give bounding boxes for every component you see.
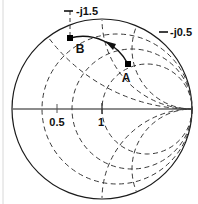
label-point-a: A <box>122 71 131 85</box>
label-axis-tick-0-5: 0.5 <box>49 116 64 128</box>
marker-point-a[interactable] <box>125 61 131 67</box>
label-point-b: B <box>76 42 85 56</box>
label-reactance-neg-j0-5: -j0.5 <box>170 26 192 38</box>
smith-chart-figure: -j1.5 -j0.5 0.5 1 A B <box>0 0 198 204</box>
label-axis-tick-1: 1 <box>98 116 104 128</box>
chart-background <box>0 0 198 204</box>
smith-chart-svg: -j1.5 -j0.5 0.5 1 A B <box>0 0 198 204</box>
marker-point-b[interactable] <box>67 35 73 41</box>
label-reactance-neg-j1-5: -j1.5 <box>76 5 98 17</box>
